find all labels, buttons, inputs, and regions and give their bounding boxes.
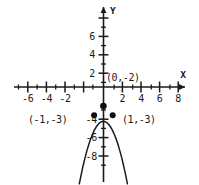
point-label-right: (1,-3) (122, 114, 156, 125)
y-tick-label-4: 4 (89, 49, 95, 60)
x-tick-label-neg6: -6 (22, 93, 34, 104)
point-label-vertex: (0,-2) (106, 72, 140, 83)
y-tick-label-2: 2 (89, 68, 95, 79)
data-point-right (110, 112, 116, 118)
x-axis-arrow-icon (179, 84, 185, 90)
parabola-graph-figure: -6 -4 -2 2 4 6 8 6 4 2 -4 -6 -8 Y X (0,-… (0, 0, 199, 185)
y-tick-label-6: 6 (89, 31, 95, 42)
y-tick-label-neg8: -8 (86, 151, 98, 162)
data-point-vertex (100, 103, 107, 110)
x-tick-label-2: 2 (120, 93, 126, 104)
point-label-left: (-1,-3) (28, 114, 67, 125)
x-tick-label-6: 6 (157, 93, 163, 104)
y-axis-arrow-icon (101, 7, 107, 13)
x-tick-label-8: 8 (175, 93, 181, 104)
y-axis-label: Y (110, 5, 116, 16)
y-tick-label-neg6: -6 (86, 132, 98, 143)
x-tick-label-4: 4 (138, 93, 144, 104)
y-tick-label-neg4: -4 (86, 114, 98, 125)
x-tick-label-neg4: -4 (41, 93, 53, 104)
coordinate-plane-svg: -6 -4 -2 2 4 6 8 6 4 2 -4 -6 -8 Y X (0,-… (0, 0, 199, 185)
x-axis-label: X (180, 69, 186, 80)
x-tick-label-neg2: -2 (59, 93, 71, 104)
